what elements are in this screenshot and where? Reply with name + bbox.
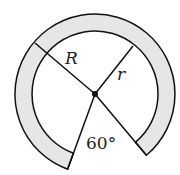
center-point xyxy=(92,91,98,97)
label-angle: 60° xyxy=(86,133,116,153)
annulus-sector-diagram: R r 60° xyxy=(0,0,180,175)
cut-left-line xyxy=(68,94,95,169)
radius-r-line xyxy=(95,46,133,94)
label-R: R xyxy=(64,48,78,68)
label-r: r xyxy=(117,64,126,84)
